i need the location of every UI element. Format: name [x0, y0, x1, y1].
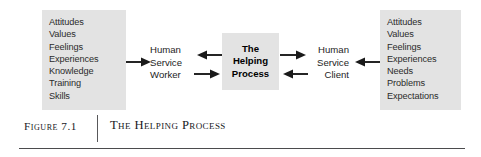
right-attributes-list: Attitudes Values Feelings Experiences Ne… [387, 16, 438, 102]
figure-number: Figure 7.1 [24, 120, 77, 132]
arrow-process-to-client [280, 49, 308, 61]
worker-label-line-3: Worker [150, 69, 194, 82]
left-attributes-panel: Attitudes Values Feelings Experiences Kn… [42, 10, 126, 110]
process-box-text: The Helping Process [222, 43, 279, 81]
list-item: Values [49, 28, 98, 40]
human-service-worker-label: Human Service Worker [150, 44, 194, 82]
left-attributes-list: Attitudes Values Feelings Experiences Kn… [49, 16, 98, 102]
list-item: Attitudes [387, 16, 438, 28]
worker-label-line-2: Service [150, 57, 194, 70]
list-item: Experiences [49, 53, 98, 65]
list-item: Problems [387, 77, 438, 89]
arrow-right-panel-to-client [352, 56, 380, 68]
list-item: Feelings [49, 41, 98, 53]
arrow-client-to-process [280, 68, 308, 80]
list-item: Values [387, 28, 438, 40]
human-service-client-label: Human Service Client [305, 44, 349, 82]
list-item: Experiences [387, 53, 438, 65]
caption-divider [97, 115, 98, 142]
client-label-line-2: Service [305, 57, 349, 70]
arrow-worker-to-process [194, 68, 222, 80]
list-item: Training [49, 77, 98, 89]
arrow-left-panel-to-worker [126, 56, 152, 68]
list-item: Skills [49, 90, 98, 102]
figure-title: The Helping Process [110, 118, 226, 133]
list-item: Feelings [387, 41, 438, 53]
helping-process-box: The Helping Process [222, 33, 279, 90]
right-attributes-panel: Attitudes Values Feelings Experiences Ne… [380, 10, 461, 110]
process-line-3: Process [222, 68, 279, 81]
list-item: Knowledge [49, 65, 98, 77]
list-item: Needs [387, 65, 438, 77]
client-label-line-3: Client [305, 69, 349, 82]
figure-container: Attitudes Values Feelings Experiences Kn… [0, 0, 481, 157]
process-line-1: The [222, 43, 279, 56]
arrow-process-to-worker [194, 49, 222, 61]
list-item: Attitudes [49, 16, 98, 28]
client-label-line-1: Human [305, 44, 349, 57]
list-item: Expectations [387, 90, 438, 102]
process-line-2: Helping [222, 55, 279, 68]
bottom-rule [19, 148, 465, 149]
worker-label-line-1: Human [150, 44, 194, 57]
figure-caption: Figure 7.1 The Helping Process [0, 114, 481, 144]
